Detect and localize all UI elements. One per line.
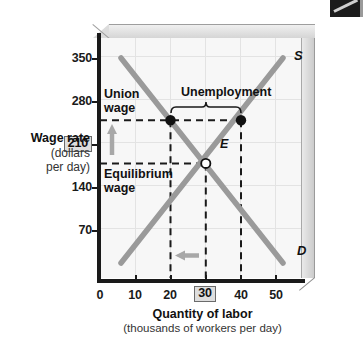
gridline-horizontal — [100, 142, 301, 143]
y-axis-tick — [92, 101, 98, 103]
gridline-horizontal — [100, 56, 301, 57]
y-axis-tick — [92, 144, 98, 146]
gridline-vertical — [275, 38, 276, 278]
y-axis-title-sub-2: per day) — [2, 160, 90, 175]
y-axis-tick — [92, 187, 98, 189]
x-axis-line — [97, 279, 305, 283]
x-axis-tick — [240, 275, 242, 281]
x-tick-label-40: 40 — [226, 288, 256, 302]
x-tick-label-20: 20 — [155, 288, 185, 302]
x-axis-tick — [275, 275, 277, 281]
x-axis-tick — [135, 275, 137, 281]
demand-curve-label: D — [297, 243, 306, 258]
x-axis-tick — [205, 275, 207, 281]
x-axis-title: Quantity of labor (thousands of workers … — [80, 307, 325, 335]
frame-top-face — [109, 24, 315, 38]
y-axis-tick — [92, 58, 98, 60]
y-axis-title-main: Wage rate — [2, 131, 90, 146]
x-axis-title-sub: (thousands of workers per day) — [80, 321, 325, 335]
gridline-vertical — [205, 38, 206, 278]
y-axis-line — [97, 33, 101, 282]
gridline-vertical — [170, 38, 171, 278]
plot-area — [100, 38, 301, 278]
x-axis-title-main: Quantity of labor — [80, 307, 325, 321]
x-tick-label-30-highlighted: 30 — [190, 286, 220, 302]
supply-demand-chart-figure: 350 280 210 140 70 0 10 20 30 40 50 Wage… — [0, 0, 363, 337]
equilibrium-point-label: E — [220, 137, 228, 151]
artifact-slash — [333, 0, 358, 13]
y-tick-label-280: 280 — [58, 94, 92, 108]
unemployment-annotation: Unemployment — [181, 86, 271, 100]
x-tick-label-0: 0 — [85, 288, 115, 302]
x-axis-tick — [170, 275, 172, 281]
x-tick-label-50: 50 — [261, 288, 291, 302]
y-tick-label-70: 70 — [58, 223, 92, 237]
gridline-vertical — [240, 38, 241, 278]
frame-top-outline — [109, 24, 315, 25]
y-tick-label-140: 140 — [58, 180, 92, 194]
gridline-horizontal — [100, 228, 301, 229]
union-wage-annotation: Union wage — [104, 88, 139, 115]
equilibrium-wage-annotation: Equilibrium wage — [104, 168, 173, 195]
x-tick-label-10: 10 — [120, 288, 150, 302]
highlighted-quantity-value: 30 — [194, 286, 216, 302]
supply-curve-label: S — [294, 48, 303, 63]
frame-right-inline — [301, 38, 302, 278]
y-axis-title: Wage rate (dollars per day) — [2, 131, 90, 175]
y-axis-title-sub-1: (dollars — [2, 146, 90, 161]
frame-right-outline — [314, 38, 315, 278]
scan-artifact — [330, 0, 363, 17]
gridline-vertical — [135, 38, 136, 278]
frame-right-face — [301, 38, 315, 278]
y-tick-label-350: 350 — [58, 51, 92, 65]
y-axis-tick — [92, 230, 98, 232]
